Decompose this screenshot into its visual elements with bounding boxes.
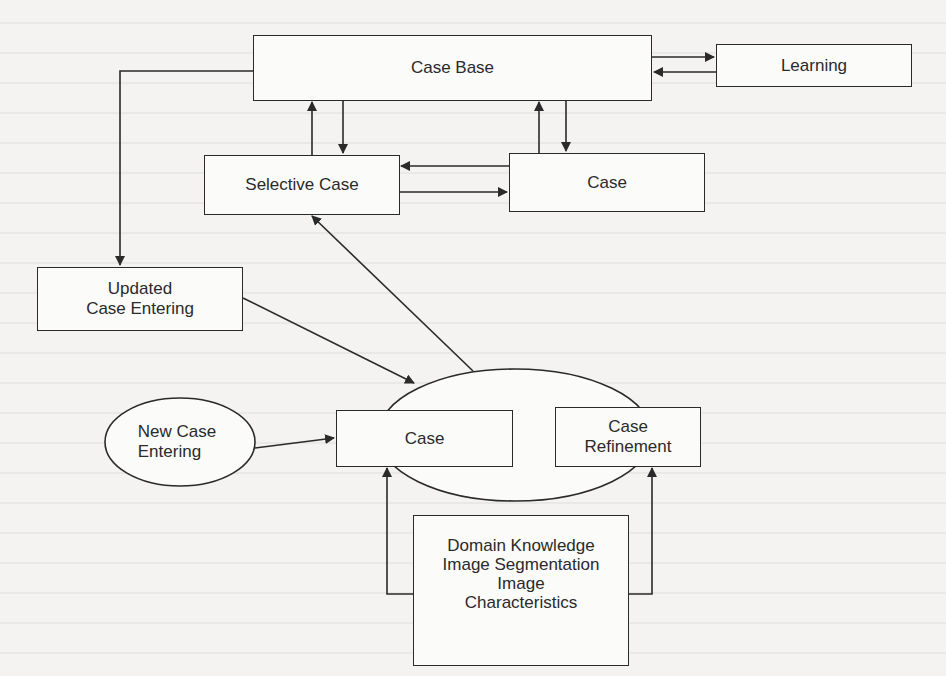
edge-newcase-to-case <box>255 438 334 448</box>
case-center-label: Case <box>405 429 445 449</box>
case-refinement-label: Case Refinement <box>585 417 672 457</box>
domain-knowledge-label: Domain Knowledge Image Segmentation Imag… <box>443 536 600 612</box>
edge-domain-to-refinement <box>629 468 652 594</box>
edge-domain-to-case <box>387 468 413 594</box>
edge-ellipse-to-selective <box>312 216 473 371</box>
case-top-label: Case <box>587 173 627 193</box>
new-case-entering-node: New Case Entering <box>105 398 255 486</box>
case-base-label: Case Base <box>411 58 494 78</box>
case-top-box: Case <box>509 153 705 212</box>
case-refinement-box: Case Refinement <box>555 407 701 467</box>
domain-knowledge-box: Domain Knowledge Image Segmentation Imag… <box>413 515 629 666</box>
new-case-entering-label: New Case Entering <box>138 422 216 462</box>
edge-updated-to-ellipse <box>243 298 414 383</box>
diagram-canvas: Case Base Learning Selective Case Case U… <box>0 0 946 676</box>
selective-case-box: Selective Case <box>204 155 400 215</box>
updated-case-entering-box: Updated Case Entering <box>37 267 243 331</box>
learning-label: Learning <box>781 56 847 76</box>
updated-case-entering-label: Updated Case Entering <box>86 279 194 319</box>
case-center-box: Case <box>336 410 513 467</box>
learning-box: Learning <box>716 44 912 87</box>
selective-case-label: Selective Case <box>245 175 358 195</box>
case-base-box: Case Base <box>253 35 652 101</box>
